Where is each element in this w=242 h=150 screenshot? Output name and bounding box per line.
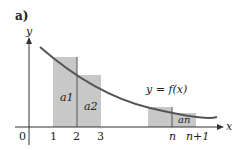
tick-1: 1 <box>50 131 57 142</box>
curve-label: y = f(x) <box>146 84 187 95</box>
tick-n-plus-1: n+1 <box>186 131 209 142</box>
area-a1: a1 <box>60 92 74 103</box>
y-axis-arrow-icon <box>26 37 32 44</box>
tick-3: 3 <box>97 131 104 142</box>
panel-label: a) <box>15 10 28 22</box>
y-axis-label: y <box>26 26 32 37</box>
tick-2: 2 <box>73 131 80 142</box>
area-an: an <box>178 115 190 125</box>
diagram-canvas <box>0 0 242 150</box>
tick-n: n <box>169 131 176 142</box>
origin-label: 0 <box>19 131 26 142</box>
x-axis-arrow-icon <box>217 124 224 130</box>
area-a2: a2 <box>84 101 98 112</box>
integral-test-diagram: a) y x 0 1 2 3 n n+1 y = f(x) a1 a2 an <box>0 0 242 150</box>
x-axis-label: x <box>226 121 232 132</box>
